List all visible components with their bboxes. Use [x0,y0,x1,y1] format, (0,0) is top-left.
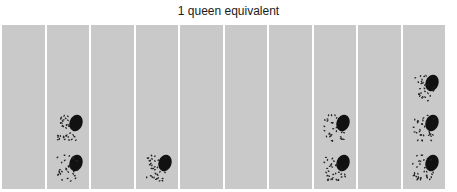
bee-cluster-icon [409,69,443,103]
bee-cluster-icon [320,109,354,143]
column-1 [2,25,45,189]
column-9 [358,25,401,189]
bee-cluster-icon [53,109,87,143]
columns-container [2,25,445,189]
bee-cluster-icon [142,149,176,183]
bee-cluster-icon [409,109,443,143]
column-7 [269,25,312,189]
column-10 [403,25,446,189]
column-5 [180,25,223,189]
column-2 [47,25,90,189]
bee-cluster-icon [53,149,87,183]
bee-cluster-icon [320,149,354,183]
figure-title: 1 queen equivalent [0,4,457,18]
bee-cluster-icon [409,149,443,183]
column-8 [314,25,357,189]
column-6 [225,25,268,189]
column-4 [136,25,179,189]
column-3 [91,25,134,189]
